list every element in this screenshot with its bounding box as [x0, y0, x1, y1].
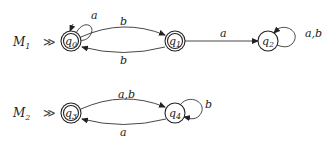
- machine-label-m1: M1: [12, 35, 30, 51]
- machine-label-m2: M2: [12, 106, 30, 122]
- automata-diagram: M1 ≫ a b b a a,b q0 q1 q2: [0, 0, 333, 143]
- transition-label: a,b: [305, 27, 322, 40]
- transition-label: a,b: [118, 88, 135, 101]
- state-q4: q4: [165, 103, 185, 123]
- transition-label: a: [91, 9, 98, 22]
- transition-q1-q0: [82, 47, 165, 53]
- transition-q4-q3: [82, 119, 166, 125]
- arrowhead-icon: [184, 117, 189, 118]
- transition-q0-q1: [81, 27, 165, 37]
- transition-label: b: [120, 54, 127, 67]
- arrowhead-icon: [70, 24, 73, 31]
- transition-label: b: [205, 98, 212, 111]
- state-q0: q0: [61, 31, 81, 51]
- transition-label: b: [120, 15, 127, 28]
- state-q3: q3: [61, 103, 81, 123]
- state-q2: q2: [258, 31, 278, 51]
- state-q1: q1: [165, 31, 185, 51]
- transition-label: a: [220, 27, 227, 40]
- machine-m2: M2 ≫ a,b a b q3 q4: [12, 88, 212, 139]
- transition-label: a: [120, 126, 127, 139]
- machine-m1: M1 ≫ a b b a a,b q0 q1 q2: [12, 9, 322, 67]
- start-marker-icon: ≫: [43, 35, 56, 49]
- start-marker-icon: ≫: [43, 106, 56, 120]
